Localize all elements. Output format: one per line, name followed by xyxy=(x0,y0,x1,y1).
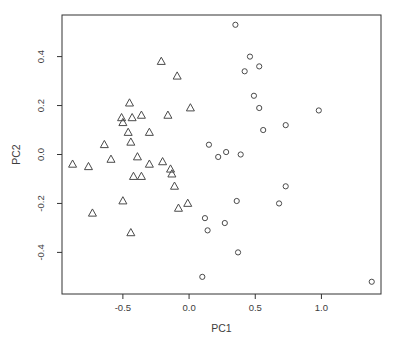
circle-point xyxy=(251,93,256,98)
triangle-point xyxy=(167,165,175,172)
circle-point xyxy=(369,279,374,284)
triangle-point xyxy=(127,138,135,145)
triangle-point xyxy=(186,104,194,111)
y-axis: -0.4-0.20.00.20.4 xyxy=(35,50,62,261)
triangle-point xyxy=(118,113,126,120)
circle-point xyxy=(257,64,262,69)
triangle-point xyxy=(145,128,153,135)
triangle-point xyxy=(84,162,92,169)
circle-point xyxy=(283,123,288,128)
y-axis-title: PC2 xyxy=(10,144,22,165)
circle-point xyxy=(283,184,288,189)
triangle-point xyxy=(119,197,127,204)
y-tick-label: -0.2 xyxy=(35,195,46,211)
triangle-point xyxy=(128,113,136,120)
scatter-plot-canvas: -0.50.00.51.0 -0.4-0.20.00.20.4 PC1 PC2 xyxy=(0,0,399,350)
triangle-point xyxy=(174,204,182,211)
triangle-point xyxy=(137,111,145,118)
data-points xyxy=(69,22,375,284)
triangle-point xyxy=(171,182,179,189)
circle-point xyxy=(235,250,240,255)
circle-point xyxy=(247,54,252,59)
triangle-point xyxy=(100,140,108,147)
circle-point xyxy=(316,108,321,113)
x-tick-label: 0.5 xyxy=(249,302,262,313)
circle-point xyxy=(202,216,207,221)
triangle-point xyxy=(124,128,132,135)
triangle-point xyxy=(88,209,96,216)
pca-scatter-plot: -0.50.00.51.0 -0.4-0.20.00.20.4 PC1 PC2 xyxy=(0,0,399,350)
x-axis-title: PC1 xyxy=(211,322,232,334)
triangle-point xyxy=(119,118,127,125)
circle-point xyxy=(233,22,238,27)
circle-point xyxy=(206,142,211,147)
circle-point xyxy=(257,105,262,110)
y-tick-label: -0.4 xyxy=(35,244,46,260)
x-axis: -0.50.00.51.0 xyxy=(115,294,328,313)
triangle-point xyxy=(164,111,172,118)
circle-point xyxy=(261,127,266,132)
circle-point xyxy=(276,201,281,206)
triangle-point xyxy=(173,72,181,79)
triangle-point xyxy=(107,155,115,162)
circle-point xyxy=(222,220,227,225)
x-tick-label: 0.0 xyxy=(182,302,195,313)
circle-point xyxy=(242,69,247,74)
circle-point xyxy=(205,228,210,233)
circle-point xyxy=(224,149,229,154)
x-tick-label: 1.0 xyxy=(315,302,328,313)
circle-point xyxy=(238,152,243,157)
y-tick-label: 0.2 xyxy=(35,99,46,112)
triangle-point xyxy=(69,160,77,167)
circle-point xyxy=(234,198,239,203)
triangle-point xyxy=(157,57,165,64)
triangle-point xyxy=(133,153,141,160)
x-tick-label: -0.5 xyxy=(115,302,131,313)
y-tick-label: 0.0 xyxy=(35,148,46,161)
triangle-point xyxy=(126,99,134,106)
y-tick-label: 0.4 xyxy=(35,50,46,63)
triangle-point xyxy=(127,229,135,236)
triangle-point xyxy=(137,172,145,179)
circle-point xyxy=(200,274,205,279)
circle-point xyxy=(216,154,221,159)
triangle-point xyxy=(145,160,153,167)
triangle-point xyxy=(168,170,176,177)
plot-border xyxy=(62,15,381,294)
triangle-point xyxy=(184,199,192,206)
triangle-point xyxy=(159,158,167,165)
triangle-point xyxy=(129,172,137,179)
